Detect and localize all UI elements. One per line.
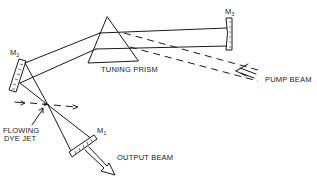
output-beam-arrow-icon xyxy=(85,147,115,175)
mirror-m2-label: M2 xyxy=(10,48,19,58)
dye-jet-pointer-icon xyxy=(32,108,43,125)
flowing-dye-jet-label-2: DYE JET xyxy=(4,134,36,143)
intracavity-beam xyxy=(20,28,227,83)
output-beam-label: OUTPUT BEAM xyxy=(117,153,173,162)
mirror-m1-label: M1 xyxy=(97,126,106,136)
mirror-m1 xyxy=(69,135,97,157)
tuning-prism xyxy=(88,17,138,63)
tuning-prism-label: TUNING PRISM xyxy=(101,65,158,74)
mirror-m3 xyxy=(226,18,232,50)
mirror-m3-label: M3 xyxy=(225,7,234,17)
pump-beam-label: PUMP BEAM xyxy=(265,75,312,84)
dye-laser-diagram: M3 M2 FLOWING DYE JET xyxy=(0,0,317,182)
mirror-m2 xyxy=(9,59,26,92)
